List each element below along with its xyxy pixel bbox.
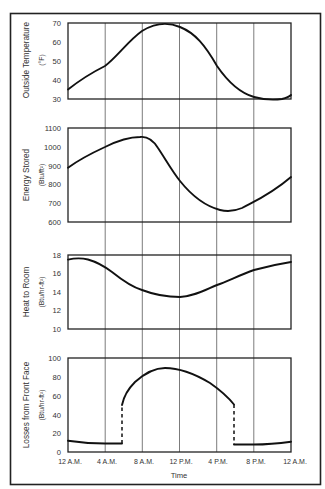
x-tick: 12 A.M. bbox=[283, 458, 307, 465]
y-tick: 18 bbox=[53, 251, 61, 260]
y-axis-label: Outside Temperature bbox=[22, 21, 31, 98]
panel-losses-front-face: 100 80 60 40 20 0 Losses from Front Face… bbox=[22, 354, 291, 457]
x-tick: 12 A.M. bbox=[58, 458, 82, 465]
panel-energy-stored: 1100 1000 900 800 700 600 Energy Stored … bbox=[22, 124, 291, 227]
y-axis-unit: (Btu/hr-ft²) bbox=[38, 277, 46, 308]
x-tick: 12 P.M. bbox=[169, 458, 192, 465]
y-tick: 700 bbox=[48, 199, 61, 208]
y-tick: 30 bbox=[53, 95, 61, 104]
losses-night-segment-1 bbox=[68, 441, 122, 444]
y-tick: 80 bbox=[53, 373, 61, 382]
y-tick: 40 bbox=[53, 411, 61, 420]
y-tick: 0 bbox=[57, 448, 61, 457]
y-axis-label: Energy Stored bbox=[22, 148, 31, 201]
panel-outside-temperature: 70 60 50 40 30 Outside Temperature (°F) bbox=[22, 19, 291, 104]
y-tick: 100 bbox=[48, 354, 61, 363]
x-tick: 8 A.M. bbox=[134, 458, 154, 465]
y-tick: 1000 bbox=[44, 143, 61, 152]
y-tick: 1100 bbox=[45, 124, 61, 133]
vertical-gridlines bbox=[105, 23, 254, 452]
y-tick: 10 bbox=[53, 325, 61, 334]
y-tick: 800 bbox=[48, 180, 61, 189]
y-tick: 12 bbox=[53, 306, 61, 315]
y-axis-label: Losses from Front Face bbox=[22, 361, 31, 448]
y-axis-unit: (Btu/hr-ft²) bbox=[38, 390, 46, 421]
y-tick: 900 bbox=[48, 162, 61, 171]
y-axis-label: Heat to Room bbox=[22, 267, 31, 318]
y-tick: 16 bbox=[53, 269, 61, 278]
x-tick: 4 A.M. bbox=[97, 458, 117, 465]
losses-night-segment-2 bbox=[234, 442, 291, 445]
y-tick: 60 bbox=[53, 38, 61, 47]
y-tick: 600 bbox=[48, 218, 61, 227]
x-tick: 4 P.M. bbox=[208, 458, 227, 465]
x-axis-label: Time bbox=[171, 471, 188, 480]
y-tick: 40 bbox=[53, 76, 61, 85]
stacked-line-charts: 70 60 50 40 30 Outside Temperature (°F) … bbox=[0, 0, 325, 489]
x-tick: 8 P.M. bbox=[246, 458, 265, 465]
y-tick: 50 bbox=[53, 57, 61, 66]
x-axis: 12 A.M. 4 A.M. 8 A.M. 12 P.M. 4 P.M. 8 P… bbox=[58, 458, 307, 480]
y-tick: 14 bbox=[53, 288, 61, 297]
y-axis-unit: (°F) bbox=[38, 54, 46, 65]
losses-day-curve bbox=[122, 368, 234, 405]
y-tick: 20 bbox=[53, 429, 61, 438]
panel-heat-to-room: 18 16 14 12 10 Heat to Room (Btu/hr-ft²) bbox=[22, 251, 291, 334]
y-tick: 60 bbox=[53, 392, 61, 401]
y-tick: 70 bbox=[53, 19, 61, 28]
y-axis-unit: (Btu/ft²) bbox=[38, 164, 46, 187]
